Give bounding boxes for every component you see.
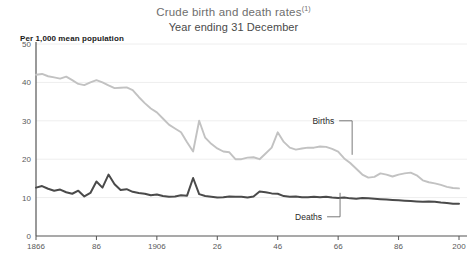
x-tick-label: 66 <box>334 242 343 251</box>
series-lines <box>36 74 459 204</box>
x-tick-label: 1866 <box>27 242 45 251</box>
y-tick-label: 30 <box>22 117 31 126</box>
series-annotation-label: Deaths <box>295 212 322 222</box>
x-tick-label: 1906 <box>148 242 166 251</box>
y-tick-label: 40 <box>22 78 31 87</box>
chart-container: Crude birth and death rates(1) Year endi… <box>0 0 467 259</box>
series-line-deaths <box>36 175 459 204</box>
x-axis: 186686190626466686200 <box>27 236 467 251</box>
y-tick-label: 50 <box>22 40 31 49</box>
series-annotation-label: Births <box>312 116 334 126</box>
y-tick-label: 0 <box>27 232 32 241</box>
y-axis: 01020304050 <box>22 40 36 241</box>
x-tick-label: 26 <box>213 242 222 251</box>
x-tick-label: 86 <box>92 242 101 251</box>
series-line-births <box>36 74 459 188</box>
x-tick-label: 86 <box>394 242 403 251</box>
series-annotations: BirthsDeaths <box>295 116 352 222</box>
y-tick-label: 10 <box>22 194 31 203</box>
x-tick-label: 46 <box>273 242 282 251</box>
chart-svg: 01020304050 186686190626466686200 Births… <box>0 0 467 259</box>
y-tick-label: 20 <box>22 155 31 164</box>
x-tick-label: 200 <box>452 242 466 251</box>
annotation-leader-line <box>339 121 352 155</box>
